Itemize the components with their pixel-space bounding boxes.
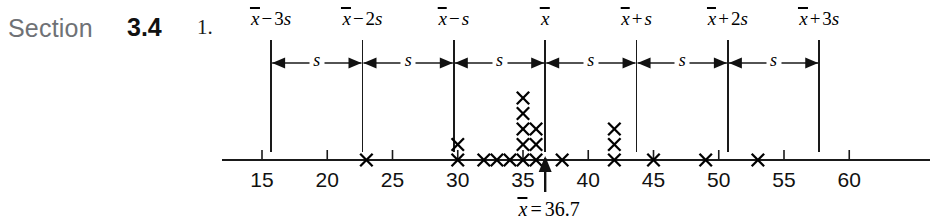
mean-pointer-arrow xyxy=(539,156,552,192)
dotplot-marker xyxy=(517,92,529,104)
dotplot-marker xyxy=(608,123,620,135)
span-label-4: s xyxy=(675,50,690,71)
dotplot-marker xyxy=(517,123,529,135)
span-label-0: s xyxy=(309,50,324,71)
dotplot-marker xyxy=(608,138,620,150)
dotplot xyxy=(360,92,764,166)
dotplot-marker xyxy=(530,138,542,150)
span-label-5: s xyxy=(766,50,781,71)
number-line xyxy=(222,150,930,160)
figure-graphics xyxy=(0,0,949,223)
dotplot-marker xyxy=(452,138,464,150)
statistics-figure: Section 3.4 1. x−3sx−2sx−sxx+sx+2sx+3s s… xyxy=(0,0,949,223)
span-label-1: s xyxy=(401,50,416,71)
dotplot-marker xyxy=(517,138,529,150)
dotplot-marker xyxy=(517,107,529,119)
span-label-2: s xyxy=(492,50,507,71)
dotplot-marker xyxy=(530,123,542,135)
span-label-3: s xyxy=(583,50,598,71)
